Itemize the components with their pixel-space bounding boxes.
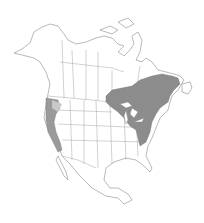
range-map [0,0,204,223]
north-america-outline [14,18,192,204]
